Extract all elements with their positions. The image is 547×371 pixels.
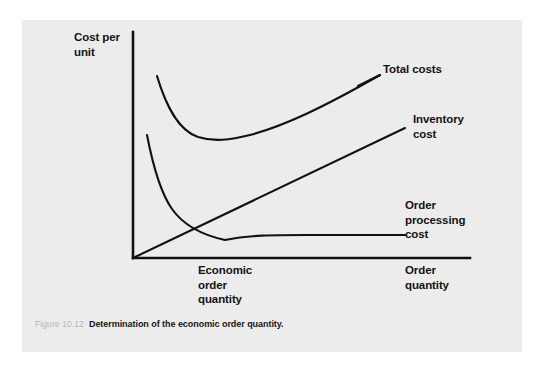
x-axis-annotation-economic-order-quantity: Economic order quantity	[198, 263, 308, 307]
chart-plot-area: Cost per unit Total costs Inventory cost…	[22, 20, 522, 352]
series-label-order-processing-cost: Order processing cost	[405, 198, 515, 242]
figure-caption: Figure 10.12Determination of the economi…	[35, 318, 284, 330]
series-label-inventory-cost: Inventory cost	[413, 112, 523, 141]
figure-caption-title: Determination of the economic order quan…	[89, 319, 284, 329]
series-label-total-costs: Total costs	[383, 62, 503, 77]
x-axis-label-order-quantity: Order quantity	[405, 263, 515, 292]
y-axis-label: Cost per unit	[74, 30, 150, 59]
figure-caption-number: Figure 10.12	[35, 319, 84, 329]
series-inventory-cost-line	[133, 128, 405, 258]
series-order-processing-cost-curve	[147, 135, 405, 240]
figure-panel: Cost per unit Total costs Inventory cost…	[22, 20, 522, 352]
series-total-costs-curve	[157, 75, 380, 140]
total-costs-leader-line	[358, 75, 380, 86]
